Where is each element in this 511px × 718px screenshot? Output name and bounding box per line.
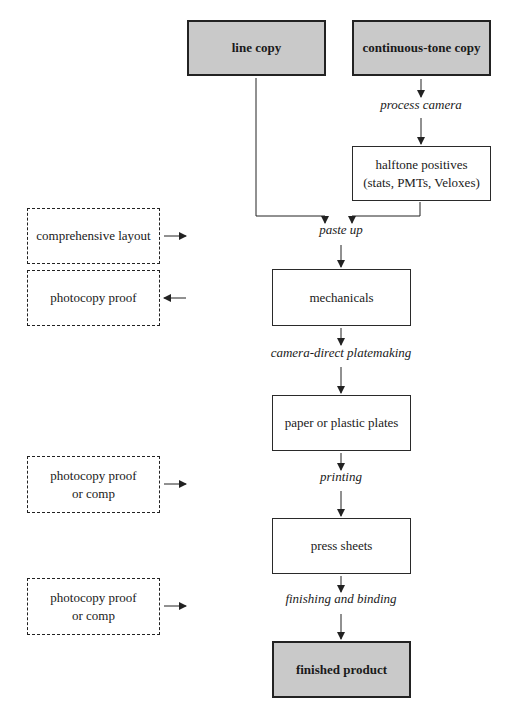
process-label-process-camera: process camera (380, 97, 461, 113)
box-label-line1: halftone positives (375, 156, 467, 174)
box-label-line2: or comp (72, 485, 115, 503)
box-continuous-tone-copy: continuous-tone copy (352, 20, 491, 76)
box-label: finished product (296, 661, 387, 679)
box-photocopy-proof-or-comp-finishing: photocopy proof or comp (27, 578, 160, 635)
box-halftone-positives: halftone positives (stats, PMTs, Veloxes… (352, 146, 491, 201)
process-label-finishing-and-binding: finishing and binding (285, 591, 396, 607)
box-label-line1: photocopy proof (50, 467, 136, 485)
box-label-line2: (stats, PMTs, Veloxes) (363, 174, 480, 192)
box-label: press sheets (311, 537, 373, 555)
arrow-halftone-to-pasteup (352, 202, 420, 223)
box-paper-or-plastic-plates: paper or plastic plates (272, 395, 411, 451)
process-label-paste-up: paste up (319, 222, 363, 238)
box-label-line2: or comp (72, 607, 115, 625)
process-label-printing: printing (320, 469, 362, 485)
box-photocopy-proof: photocopy proof (27, 270, 160, 326)
box-label: line copy (232, 39, 281, 57)
box-press-sheets: press sheets (272, 518, 411, 574)
box-mechanicals: mechanicals (272, 269, 411, 326)
process-label-camera-direct-platemaking: camera-direct platemaking (271, 345, 412, 361)
box-label: continuous-tone copy (362, 39, 480, 57)
box-label-line1: photocopy proof (50, 589, 136, 607)
box-label: comprehensive layout (36, 227, 150, 245)
box-label: photocopy proof (50, 289, 136, 307)
box-label: mechanicals (309, 289, 373, 307)
box-comprehensive-layout: comprehensive layout (27, 208, 160, 264)
box-photocopy-proof-or-comp-printing: photocopy proof or comp (27, 456, 160, 513)
arrow-linecopy-to-pasteup (256, 78, 325, 223)
box-label: paper or plastic plates (285, 414, 399, 432)
box-finished-product: finished product (272, 641, 411, 698)
box-line-copy: line copy (187, 20, 326, 76)
